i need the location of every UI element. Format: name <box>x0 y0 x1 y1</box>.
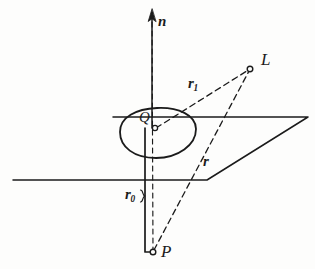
point-marker-Q <box>152 125 157 130</box>
ground-plane-parallelogram <box>13 117 308 180</box>
figure-canvas: n L r1 Q r r0 P <box>0 0 315 269</box>
label-vector-r0-base: r <box>125 186 131 202</box>
segment-r1 <box>156 69 250 128</box>
label-vector-r1-subscript: 1 <box>194 83 199 93</box>
segment-r0-dropline <box>145 128 152 252</box>
label-point-Q: Q <box>139 110 150 125</box>
point-marker-P <box>150 249 156 255</box>
label-point-P: P <box>161 243 171 260</box>
point-marker-L <box>247 66 253 72</box>
label-vector-r0: r0 <box>125 187 136 202</box>
label-vector-r: r <box>203 154 209 169</box>
label-normal-vector-n: n <box>158 14 166 29</box>
surface-patch-blob <box>120 108 196 158</box>
label-vector-r1-base: r <box>188 75 194 91</box>
label-point-L: L <box>261 51 270 68</box>
diagram-svg <box>0 0 315 269</box>
label-vector-r0-subscript: 0 <box>131 194 136 204</box>
label-vector-r1: r1 <box>188 76 199 91</box>
segment-r <box>154 71 249 250</box>
